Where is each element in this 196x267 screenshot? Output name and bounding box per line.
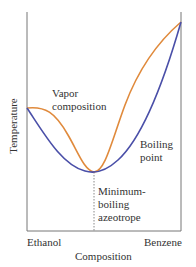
boiling-label-line2: point bbox=[140, 151, 163, 164]
x-tick-ethanol: Ethanol bbox=[27, 236, 61, 249]
azeotrope-label-line3: azeotrope bbox=[98, 211, 141, 224]
x-axis-label: Composition bbox=[75, 250, 132, 263]
boiling-label-line1: Boiling bbox=[140, 138, 173, 151]
azeotrope-label-line2: boiling bbox=[98, 198, 129, 211]
vapor-label-line2: composition bbox=[52, 100, 106, 113]
vapor-label-line1: Vapor bbox=[52, 87, 78, 100]
azeotrope-label-line1: Minimum- bbox=[98, 185, 146, 198]
x-tick-benzene: Benzene bbox=[144, 236, 182, 249]
y-axis-label: Temperature bbox=[7, 91, 19, 161]
phase-diagram bbox=[0, 0, 196, 267]
